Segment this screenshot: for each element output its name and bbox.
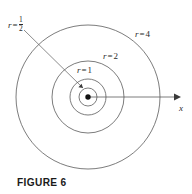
label-r-half-equals: = (12, 20, 19, 30)
label-r-1-equals: = (81, 65, 88, 75)
leader-line-r-half (24, 30, 83, 88)
label-r-two: r=2 (103, 52, 118, 61)
figure-caption: FIGURE 6 (17, 176, 67, 188)
label-r-half-variable: r (8, 20, 12, 30)
x-axis-label: x (179, 104, 183, 113)
fraction-one-half: 12 (19, 16, 24, 32)
label-r-4-equals: = (139, 29, 146, 39)
fraction-denominator: 2 (19, 25, 24, 33)
label-r-four: r=4 (135, 30, 150, 39)
x-axis-arrowhead (174, 94, 181, 101)
label-r-2-equals: = (107, 51, 114, 61)
figure-container: r=12 r=4 r=2 r=1 x FIGURE 6 (0, 0, 192, 194)
label-r-2-variable: r (103, 51, 107, 61)
label-r-4-value: 4 (146, 29, 151, 39)
label-r-2-value: 2 (114, 51, 119, 61)
label-r-4-variable: r (135, 29, 139, 39)
concentric-circles-diagram (0, 0, 192, 194)
origin-dot (85, 94, 90, 99)
label-r-one-half: r=12 (8, 16, 23, 32)
label-r-one: r=1 (77, 66, 92, 75)
label-r-1-value: 1 (88, 65, 93, 75)
label-r-1-variable: r (77, 65, 81, 75)
